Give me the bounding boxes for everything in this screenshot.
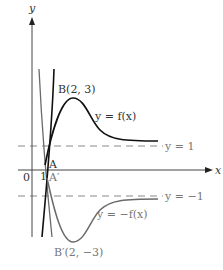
origin-label: 0 bbox=[23, 171, 30, 184]
curve-neg-f-left-branch bbox=[39, 69, 52, 237]
curve-neg-f-label: y = −f(x) bbox=[96, 208, 148, 221]
point-b-label: B(2, 3) bbox=[58, 83, 96, 96]
asymptote-y-minus-1-label: y = −1 bbox=[164, 190, 204, 203]
asymptote-y-1-label: y = 1 bbox=[164, 140, 194, 153]
y-axis-label: y bbox=[28, 2, 36, 15]
point-b-prime-label: B′(2, −3) bbox=[54, 246, 103, 259]
point-a-prime-label: A′ bbox=[48, 171, 60, 184]
x-axis-arrow-icon bbox=[205, 167, 213, 173]
curve-f-label: y = f(x) bbox=[94, 110, 136, 123]
function-reflection-diagram: y x 0 1 B(2, 3) y = f(x) y = 1 A A′ y = … bbox=[0, 0, 223, 270]
x-tick-1-label: 1 bbox=[40, 170, 47, 183]
x-axis-label: x bbox=[215, 164, 222, 177]
curve-f bbox=[45, 98, 158, 165]
y-axis-arrow-icon bbox=[29, 17, 35, 25]
point-a-label: A bbox=[48, 158, 58, 171]
